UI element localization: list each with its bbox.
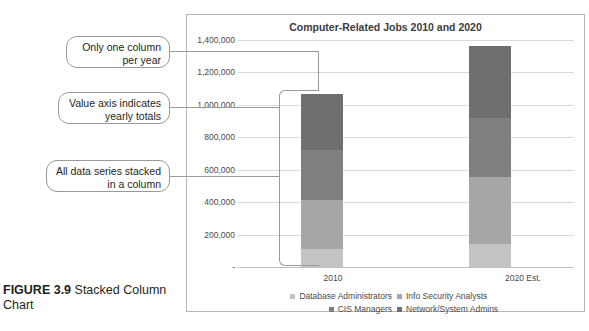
segment-network-system-admins[interactable] bbox=[469, 46, 511, 118]
y-axis-tick-label: 600,000 bbox=[189, 165, 235, 175]
legend-row-2: CIS Managers Network/System Admins bbox=[187, 304, 584, 314]
column-bracket-bottom-cap bbox=[304, 265, 319, 266]
chart-title: Computer-Related Jobs 2010 and 2020 bbox=[187, 21, 584, 33]
callout-leader-line-one-column bbox=[170, 51, 318, 52]
column-2020-est-[interactable] bbox=[469, 46, 511, 267]
legend-item-info-security-analysts[interactable]: Info Security Analysts bbox=[392, 291, 527, 301]
gridline bbox=[238, 40, 574, 41]
legend-item-network-system-admins[interactable]: Network/System Admins bbox=[392, 304, 527, 314]
callout-all-data-series-stacked-in-a-column: All data series stacked in a column bbox=[46, 160, 170, 192]
legend-label-network-system-admins: Network/System Admins bbox=[406, 304, 498, 314]
callout-leader-line-value-axis bbox=[170, 107, 280, 108]
axis-baseline bbox=[238, 267, 574, 268]
x-axis-label-2010: 2010 bbox=[238, 273, 428, 283]
y-axis-tick-label: 400,000 bbox=[189, 197, 235, 207]
x-axis-label-2020: 2020 Est. bbox=[428, 273, 589, 283]
callout-only-one-column-per-year: Only one column per year bbox=[66, 36, 170, 68]
legend-swatch-network-system-admins bbox=[397, 307, 402, 312]
segment-cis-managers[interactable] bbox=[469, 118, 511, 177]
figure-label: FIGURE 3.9 bbox=[3, 283, 71, 297]
y-axis-tick-label: 800,000 bbox=[189, 132, 235, 142]
legend-item-database-administrators[interactable]: Database Administrators bbox=[244, 291, 392, 301]
column-bracket-top-cap bbox=[304, 90, 319, 91]
y-axis-tick-label: 1,400,000 bbox=[189, 35, 235, 45]
y-axis: -200,000400,000600,000800,0001,000,0001,… bbox=[187, 40, 235, 267]
column-bracket-top-connector bbox=[318, 51, 319, 91]
legend-swatch-cis-managers bbox=[329, 307, 334, 312]
y-axis-tick-label: - bbox=[189, 262, 235, 272]
legend-label-database-administrators: Database Administrators bbox=[299, 291, 392, 301]
segment-info-security-analysts[interactable] bbox=[469, 177, 511, 244]
y-axis-tick-label: 1,000,000 bbox=[189, 100, 235, 110]
callout-value-axis-indicates-yearly-totals: Value axis indicates yearly totals bbox=[58, 92, 170, 124]
legend-label-info-security-analysts: Info Security Analysts bbox=[406, 291, 487, 301]
segment-database-administrators[interactable] bbox=[469, 244, 511, 267]
column-highlight-bracket bbox=[279, 90, 319, 266]
y-axis-tick-label: 1,200,000 bbox=[189, 67, 235, 77]
callout-leader-line-stacked bbox=[170, 176, 280, 177]
y-axis-tick-label: 200,000 bbox=[189, 230, 235, 240]
figure-caption: FIGURE 3.9 Stacked Column Chart bbox=[3, 283, 181, 313]
legend-swatch-info-security-analysts bbox=[397, 294, 402, 299]
legend-label-cis-managers: CIS Managers bbox=[338, 304, 392, 314]
legend-swatch-database-administrators bbox=[290, 294, 295, 299]
gridline bbox=[238, 72, 574, 73]
legend-row-1: Database Administrators Info Security An… bbox=[187, 291, 584, 301]
chart-legend: Database Administrators Info Security An… bbox=[187, 291, 584, 314]
chart-container: Computer-Related Jobs 2010 and 2020 -200… bbox=[186, 14, 585, 312]
legend-item-cis-managers[interactable]: CIS Managers bbox=[244, 304, 392, 314]
